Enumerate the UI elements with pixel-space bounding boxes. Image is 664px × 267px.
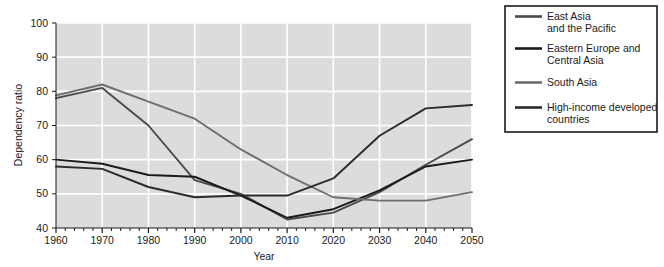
y-tick-label: 70 xyxy=(36,119,48,131)
x-tick-label: 2030 xyxy=(368,234,392,246)
x-tick-label: 2000 xyxy=(229,234,253,246)
legend-label-1: Eastern Europe and xyxy=(547,42,641,54)
legend-label-3-line2: countries xyxy=(547,113,590,125)
legend-label-1-line2: Central Asia xyxy=(547,54,604,66)
x-tick-label: 1990 xyxy=(183,234,207,246)
x-tick-label: 2040 xyxy=(414,234,438,246)
y-tick-label: 80 xyxy=(36,85,48,97)
x-tick-label: 1980 xyxy=(137,234,161,246)
y-tick-label: 100 xyxy=(30,17,48,29)
y-axis-title: Dependency ratio xyxy=(12,84,24,166)
x-tick-label: 2050 xyxy=(460,234,484,246)
x-tick-label: 1970 xyxy=(91,234,115,246)
y-tick-label: 40 xyxy=(36,222,48,234)
y-tick-label: 50 xyxy=(36,187,48,199)
y-tick-label: 90 xyxy=(36,51,48,63)
x-tick-label: 1960 xyxy=(44,234,68,246)
x-tick-label: 2020 xyxy=(322,234,346,246)
legend-label-0: East Asia xyxy=(547,10,591,22)
legend-label-0-line2: and the Pacific xyxy=(547,22,616,34)
x-tick-label: 2010 xyxy=(275,234,299,246)
legend-label-2: South Asia xyxy=(547,76,597,88)
legend-label-3: High-income developed xyxy=(547,101,657,113)
x-axis-title: Year xyxy=(253,250,275,262)
line-chart-figure: 405060708090100 196019701980199020002010… xyxy=(0,0,664,267)
y-tick-label: 60 xyxy=(36,153,48,165)
